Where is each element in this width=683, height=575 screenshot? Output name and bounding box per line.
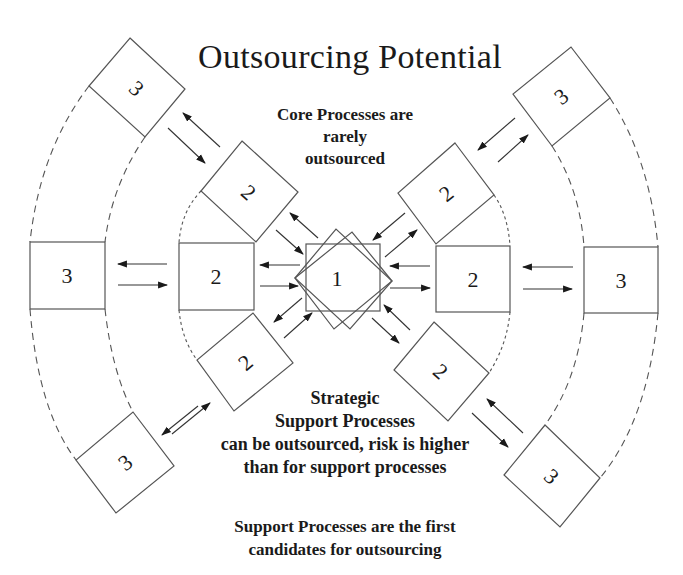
- support-processes-annotation: Support Processes are the first candidat…: [200, 515, 490, 561]
- middle-arc-left-upper: [105, 137, 145, 242]
- middle-arc-left-lower: [105, 309, 133, 412]
- node-label: 3: [616, 268, 627, 293]
- node-label: 3: [539, 463, 564, 489]
- outer-arc-left-upper: [30, 86, 89, 242]
- strategic-node-right: 2: [436, 246, 510, 312]
- node-label: 2: [236, 179, 261, 205]
- strategic-nodes: 2 2 2 2 2 2: [179, 141, 510, 421]
- annotation-line: rarely: [250, 126, 440, 148]
- outsourcing-potential-diagram: 1 2 2 2 2 2: [0, 0, 683, 575]
- support-node-right: 3: [584, 247, 658, 313]
- node-label: 3: [62, 263, 73, 288]
- arrow-icon: [168, 128, 205, 163]
- support-node-lower-left: 3: [76, 412, 174, 513]
- annotation-line: Support Processes are the first: [200, 515, 490, 538]
- inner-arc-right-lower: [489, 312, 510, 373]
- middle-arc-right-lower: [545, 313, 584, 425]
- annotation-line: outsourced: [250, 148, 440, 170]
- middle-arc-right-upper: [552, 146, 584, 247]
- core-process-node: 1: [295, 229, 392, 329]
- arrow-icon: [385, 230, 417, 257]
- node-label: 3: [113, 449, 137, 475]
- arrow-icon: [372, 318, 399, 343]
- arrow-icon: [384, 305, 410, 330]
- arrow-icon: [183, 113, 220, 147]
- node-label: 2: [428, 358, 453, 384]
- arrow-icon: [284, 313, 312, 338]
- annotation-line: can be outsourced, risk is higher: [190, 433, 500, 456]
- inner-arc-right-upper: [494, 195, 510, 246]
- strategic-support-annotation: Strategic Support Processes can be outso…: [190, 387, 500, 479]
- node-label: 2: [468, 267, 479, 292]
- support-node-lower-right: 3: [504, 425, 600, 527]
- node-label: 2: [434, 180, 458, 206]
- node-label: 3: [124, 75, 149, 101]
- arrow-icon: [274, 298, 302, 322]
- annotation-line: candidates for outsourcing: [200, 538, 490, 561]
- arrow-icon: [478, 118, 515, 150]
- outer-arc-left-lower: [30, 309, 76, 460]
- annotation-line: Strategic: [190, 387, 500, 410]
- annotation-line: than for support processes: [190, 456, 500, 479]
- annotation-line: Support Processes: [190, 410, 500, 433]
- arrow-icon: [373, 213, 405, 240]
- inner-arc-left-lower: [179, 310, 197, 360]
- inner-arc-left-upper: [179, 191, 201, 243]
- node-label: 2: [211, 264, 222, 289]
- arrow-icon: [498, 135, 528, 162]
- support-node-left: 3: [30, 242, 105, 309]
- outer-arc-right-lower: [600, 313, 658, 478]
- diagram-canvas: 1 2 2 2 2 2: [0, 0, 683, 575]
- outer-arc-right-upper: [610, 98, 658, 247]
- node-label: 3: [549, 83, 573, 109]
- annotation-line: Core Processes are: [250, 104, 440, 126]
- node-label: 2: [233, 349, 257, 375]
- core-processes-annotation: Core Processes are rarely outsourced: [250, 104, 440, 170]
- arrow-icon: [276, 230, 303, 254]
- diagram-title: Outsourcing Potential: [150, 38, 550, 76]
- core-node-label: 1: [332, 266, 343, 291]
- arrow-icon: [290, 213, 318, 238]
- strategic-node-left: 2: [179, 243, 254, 310]
